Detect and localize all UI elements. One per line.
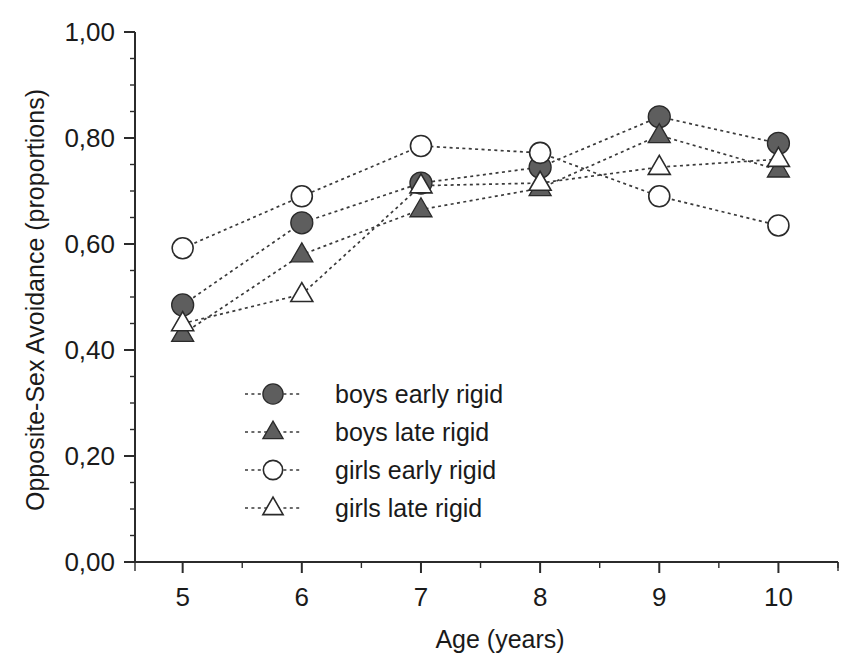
y-tick-label: 0,20	[64, 441, 115, 471]
marker-open-triangle	[291, 283, 313, 302]
data-series	[172, 124, 790, 342]
marker-open-circle	[530, 142, 551, 163]
chart-canvas: 0,000,200,400,600,801,00 5678910 boys ea…	[0, 0, 862, 667]
marker-open-circle	[172, 238, 193, 259]
legend-item: boys early rigid	[245, 380, 503, 408]
legend-item: boys late rigid	[245, 418, 489, 446]
series-line	[183, 117, 779, 305]
legend-item: girls early rigid	[245, 456, 496, 484]
y-tick-label: 0,60	[64, 229, 115, 259]
marker-open-triangle	[263, 497, 283, 514]
legend-item-label: girls early rigid	[335, 456, 496, 484]
data-series	[172, 106, 790, 316]
y-tick-label: 0,40	[64, 335, 115, 365]
marker-filled-triangle	[648, 124, 670, 143]
x-tick-label: 7	[414, 582, 428, 612]
marker-filled-triangle	[291, 243, 313, 262]
series-line	[183, 146, 779, 248]
legend-item-label: girls late rigid	[335, 494, 482, 522]
legend-item-label: boys early rigid	[335, 380, 503, 408]
chart-legend: boys early rigidboys late rigidgirls ear…	[245, 380, 503, 522]
x-tick-label: 8	[533, 582, 547, 612]
chart-figure: 0,000,200,400,600,801,00 5678910 boys ea…	[0, 0, 862, 667]
legend-item-label: boys late rigid	[335, 418, 489, 446]
x-tick-label: 10	[764, 582, 793, 612]
data-series-group	[172, 106, 790, 342]
x-axis: 5678910	[135, 562, 838, 612]
data-series	[172, 135, 789, 258]
x-tick-label: 6	[295, 582, 309, 612]
marker-open-circle	[768, 215, 789, 236]
data-series	[172, 147, 790, 330]
marker-open-circle	[263, 460, 282, 479]
y-axis: 0,000,200,400,600,801,00	[64, 17, 135, 577]
marker-open-triangle	[648, 155, 670, 174]
marker-filled-triangle	[263, 421, 283, 438]
x-tick-label: 5	[175, 582, 189, 612]
marker-filled-circle	[291, 212, 313, 234]
y-tick-label: 0,80	[64, 123, 115, 153]
x-tick-label: 9	[652, 582, 666, 612]
x-axis-title: Age (years)	[435, 625, 564, 653]
marker-open-circle	[649, 186, 670, 207]
y-tick-label: 0,00	[64, 547, 115, 577]
marker-filled-triangle	[410, 198, 432, 217]
marker-filled-circle	[263, 384, 283, 404]
y-axis-title: Opposite-Sex Avoidance (proportions)	[21, 89, 49, 511]
series-line	[183, 159, 779, 323]
legend-item: girls late rigid	[245, 494, 482, 522]
marker-open-circle	[410, 135, 431, 156]
y-tick-label: 1,00	[64, 17, 115, 47]
marker-open-circle	[291, 186, 312, 207]
